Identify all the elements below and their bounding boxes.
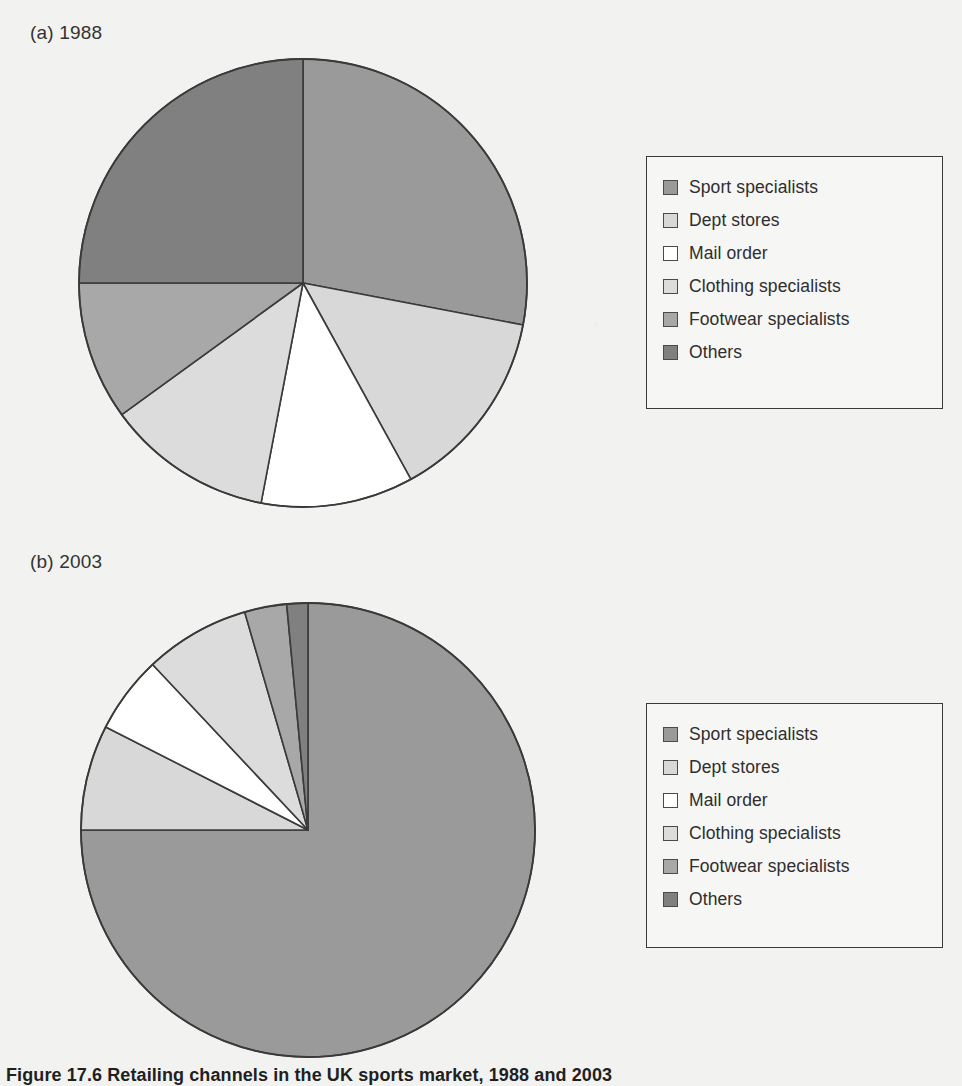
legend-item-label: Mail order [689,243,768,264]
legend-swatch-icon [663,859,678,874]
legend-item-label: Clothing specialists [689,276,841,297]
legend-item-mail-order[interactable]: Mail order [663,784,926,817]
legend-swatch-icon [663,892,678,907]
legend-swatch-icon [663,213,678,228]
legend-item-label: Dept stores [689,757,780,778]
legend-item-label: Dept stores [689,210,780,231]
legend-item-dept-stores[interactable]: Dept stores [663,751,926,784]
pie-chart-2003 [60,585,560,1075]
legend-2003: Sport specialists Dept stores Mail order… [646,703,943,948]
legend-item-others[interactable]: Others [663,883,926,916]
legend-swatch-icon [663,826,678,841]
legend-swatch-icon [663,345,678,360]
legend-swatch-icon [663,279,678,294]
pie-chart-1988 [60,40,560,530]
legend-swatch-icon [663,180,678,195]
legend-item-clothing-specialists[interactable]: Clothing specialists [663,270,926,303]
legend-item-dept-stores[interactable]: Dept stores [663,204,926,237]
legend-item-label: Footwear specialists [689,856,850,877]
pie-slice-sport-specialists [303,59,527,325]
legend-swatch-icon [663,793,678,808]
legend-swatch-icon [663,312,678,327]
legend-swatch-icon [663,760,678,775]
bleed-through-text-line1 [340,2,345,19]
bleed-through-text-line2 [360,24,365,41]
legend-item-label: Footwear specialists [689,309,850,330]
legend-item-footwear-specialists[interactable]: Footwear specialists [663,850,926,883]
legend-item-others[interactable]: Others [663,336,926,369]
legend-item-clothing-specialists[interactable]: Clothing specialists [663,817,926,850]
legend-item-sport-specialists[interactable]: Sport specialists [663,718,926,751]
legend-item-label: Sport specialists [689,724,818,745]
legend-item-sport-specialists[interactable]: Sport specialists [663,171,926,204]
legend-item-label: Mail order [689,790,768,811]
legend-1988: Sport specialists Dept stores Mail order… [646,156,943,409]
panel-b-label: (b) 2003 [30,551,102,573]
legend-swatch-icon [663,246,678,261]
legend-item-label: Sport specialists [689,177,818,198]
legend-item-label: Others [689,889,742,910]
legend-item-footwear-specialists[interactable]: Footwear specialists [663,303,926,336]
legend-item-label: Others [689,342,742,363]
legend-item-label: Clothing specialists [689,823,841,844]
pie-slice-others [79,59,303,283]
legend-item-mail-order[interactable]: Mail order [663,237,926,270]
legend-swatch-icon [663,727,678,742]
figure-caption: Figure 17.6 Retailing channels in the UK… [6,1065,612,1086]
